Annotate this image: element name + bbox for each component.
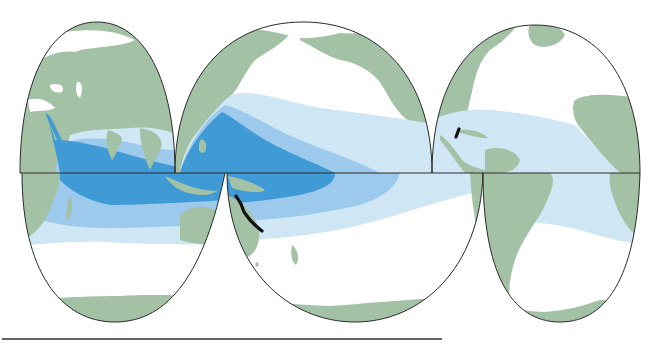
australia-west-land [180, 207, 230, 245]
lobe-north-pacific [170, 20, 440, 175]
lobe-north-atlantic [430, 20, 645, 175]
lobe-north-west [15, 20, 180, 173]
world-map [0, 0, 655, 346]
antarctica-west-land [18, 295, 230, 330]
lobe-south-west [18, 170, 230, 330]
lobe-south-pacific [225, 170, 485, 330]
lobe-south-atlantic [480, 170, 645, 330]
